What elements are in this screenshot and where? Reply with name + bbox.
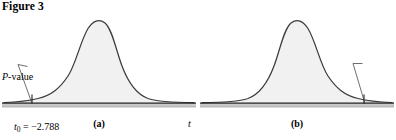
- figure-container: Figure 3: [0, 0, 396, 140]
- pvalue-leader-line-b: [353, 64, 365, 103]
- figure-title: Figure 3: [2, 0, 44, 13]
- panel-a: P-value t0 = −2.788 t (a): [0, 14, 198, 140]
- panel-caption-b: (b): [198, 118, 396, 130]
- pvalue-label-a-suffix: -value: [8, 71, 33, 82]
- distribution-curve-fill-a: [4, 21, 194, 103]
- distribution-curve-fill-b: [202, 21, 392, 103]
- axis-band-a: [2, 104, 196, 107]
- panel-b: P-value t0 = 2.788 t (b): [198, 14, 396, 140]
- pvalue-label-a: P-value: [2, 71, 33, 82]
- pvalue-leader-arrowhead-a: [18, 65, 28, 67]
- axis-band-b: [200, 104, 394, 107]
- panel-caption-a: (a): [0, 118, 198, 130]
